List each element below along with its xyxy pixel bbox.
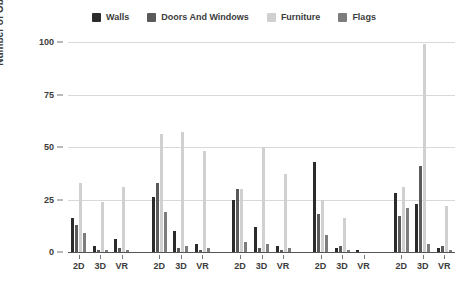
gridline-100 [68,42,455,43]
bar [284,174,287,252]
bar [415,204,418,252]
x-tick-label-6: 2D [234,261,246,271]
bar [262,147,265,252]
x-tick-label-5: VR [196,261,209,271]
bar [97,250,100,252]
x-tick-label-0: 2D [73,261,85,271]
bar [445,206,448,252]
x-tick-label-13: 3D [417,261,429,271]
x-tick-mark-9 [321,255,322,259]
bar [185,246,188,252]
bar [203,151,206,252]
bar [398,216,401,252]
gridline-75 [68,95,455,96]
y-tick-label-0: 0 [49,247,54,257]
x-axis: 2D3DVR2D3DVR2D3DVR2D3DVR2D3DVR [68,255,455,275]
bar [280,250,283,252]
bar [114,239,117,252]
bar [288,248,291,252]
bar [343,218,346,252]
y-tick-mark-75 [57,94,63,95]
x-tick-mark-5 [202,255,203,259]
bar [427,244,430,252]
bar [254,227,257,252]
bar [173,231,176,252]
bar [101,202,104,252]
x-tick-label-11: VR [357,261,370,271]
bar [406,208,409,252]
bar [441,246,444,252]
y-tick-mark-50 [57,147,63,148]
x-tick-mark-0 [79,255,80,259]
bar [276,246,279,252]
bar [244,242,247,253]
bar [402,187,405,252]
x-tick-mark-1 [100,255,101,259]
x-tick-mark-8 [283,255,284,259]
bar [122,187,125,252]
x-tick-label-14: VR [438,261,451,271]
bar [195,244,198,252]
bar [156,183,159,252]
y-axis: Number of Objects 0255075100 [0,0,68,281]
bar [423,44,426,252]
bar [356,250,359,252]
bar [232,200,235,253]
bar [347,250,350,252]
bar [199,250,202,252]
y-tick-label-75: 75 [44,90,54,100]
y-tick-mark-25 [57,199,63,200]
x-tick-mark-2 [122,255,123,259]
plot-area [68,42,455,252]
x-tick-label-9: 2D [315,261,327,271]
x-tick-mark-6 [240,255,241,259]
y-tick-label-100: 100 [39,37,54,47]
bar [437,248,440,252]
bar [317,214,320,252]
x-tick-label-8: VR [277,261,290,271]
bar [160,134,163,252]
y-tick-mark-100 [57,42,63,43]
bar [449,250,452,252]
x-tick-mark-4 [181,255,182,259]
bar [71,218,74,252]
bar [83,233,86,252]
bar [266,244,269,252]
x-tick-mark-7 [262,255,263,259]
x-tick-mark-11 [364,255,365,259]
x-tick-label-7: 3D [256,261,268,271]
bar [75,225,78,252]
bar [240,189,243,252]
bar [177,248,180,252]
y-tick-label-50: 50 [44,142,54,152]
x-tick-mark-13 [423,255,424,259]
bar [394,193,397,252]
y-tick-label-25: 25 [44,195,54,205]
bar [236,189,239,252]
bar [181,132,184,252]
bar [419,166,422,252]
x-tick-label-10: 3D [336,261,348,271]
y-axis-title: Number of Objects [0,0,5,86]
bar [93,246,96,252]
x-tick-mark-12 [401,255,402,259]
bar [164,212,167,252]
bar [79,183,82,252]
bar [152,197,155,252]
bar-chart: Number of Objects 0255075100 2D3DVR2D3DV… [0,0,468,281]
x-tick-label-3: 2D [154,261,166,271]
x-tick-mark-10 [342,255,343,259]
bar [339,246,342,252]
x-tick-label-2: VR [116,261,129,271]
x-tick-label-1: 3D [95,261,107,271]
bar [258,248,261,252]
x-tick-label-12: 2D [395,261,407,271]
y-tick-mark-0 [57,252,63,253]
bar [313,162,316,252]
bar [321,200,324,253]
x-tick-mark-14 [444,255,445,259]
bar [207,248,210,252]
x-tick-mark-3 [159,255,160,259]
x-axis-line [68,252,455,253]
bar [126,250,129,252]
